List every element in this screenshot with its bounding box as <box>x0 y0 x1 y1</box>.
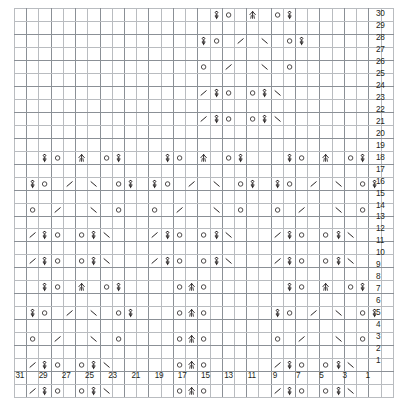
chart-cell[interactable] <box>198 242 210 255</box>
chart-cell[interactable] <box>88 190 100 203</box>
chart-cell[interactable] <box>247 255 259 268</box>
chart-cell[interactable] <box>173 268 185 281</box>
chart-cell[interactable] <box>112 60 124 73</box>
chart-cell[interactable] <box>332 34 344 47</box>
chart-cell[interactable] <box>63 385 75 398</box>
chart-cell[interactable] <box>296 151 308 164</box>
chart-cell[interactable] <box>15 294 27 307</box>
chart-cell[interactable] <box>186 203 198 216</box>
chart-cell[interactable] <box>100 125 112 138</box>
chart-cell[interactable] <box>320 164 332 177</box>
chart-cell[interactable] <box>51 177 63 190</box>
chart-cell[interactable] <box>271 9 283 22</box>
chart-cell[interactable] <box>271 112 283 125</box>
chart-cell[interactable] <box>332 99 344 112</box>
chart-cell[interactable] <box>247 203 259 216</box>
chart-cell[interactable] <box>247 320 259 333</box>
chart-cell[interactable] <box>51 9 63 22</box>
chart-cell[interactable] <box>283 125 295 138</box>
chart-cell[interactable] <box>296 385 308 398</box>
chart-cell[interactable] <box>100 346 112 359</box>
chart-cell[interactable] <box>247 333 259 346</box>
chart-cell[interactable] <box>137 21 149 34</box>
chart-cell[interactable] <box>63 86 75 99</box>
chart-cell[interactable] <box>259 99 271 112</box>
chart-cell[interactable] <box>234 177 246 190</box>
chart-cell[interactable] <box>234 47 246 60</box>
chart-cell[interactable] <box>222 164 234 177</box>
chart-cell[interactable] <box>210 190 222 203</box>
chart-cell[interactable] <box>76 60 88 73</box>
chart-cell[interactable] <box>173 112 185 125</box>
chart-cell[interactable] <box>357 385 369 398</box>
chart-cell[interactable] <box>76 320 88 333</box>
chart-cell[interactable] <box>88 281 100 294</box>
chart-cell[interactable] <box>186 177 198 190</box>
chart-cell[interactable] <box>39 385 51 398</box>
chart-cell[interactable] <box>15 47 27 60</box>
chart-cell[interactable] <box>76 385 88 398</box>
chart-cell[interactable] <box>186 190 198 203</box>
chart-cell[interactable] <box>271 294 283 307</box>
chart-cell[interactable] <box>186 281 198 294</box>
chart-cell[interactable] <box>51 34 63 47</box>
chart-cell[interactable] <box>137 73 149 86</box>
chart-cell[interactable] <box>88 73 100 86</box>
chart-cell[interactable] <box>76 216 88 229</box>
chart-cell[interactable] <box>137 229 149 242</box>
chart-cell[interactable] <box>173 34 185 47</box>
chart-cell[interactable] <box>137 333 149 346</box>
chart-cell[interactable] <box>308 346 320 359</box>
chart-cell[interactable] <box>210 164 222 177</box>
chart-cell[interactable] <box>259 242 271 255</box>
chart-cell[interactable] <box>296 242 308 255</box>
chart-cell[interactable] <box>308 164 320 177</box>
chart-cell[interactable] <box>247 216 259 229</box>
chart-cell[interactable] <box>296 9 308 22</box>
chart-cell[interactable] <box>161 164 173 177</box>
chart-cell[interactable] <box>124 73 136 86</box>
chart-cell[interactable] <box>247 9 259 22</box>
chart-cell[interactable] <box>51 99 63 112</box>
chart-cell[interactable] <box>283 60 295 73</box>
chart-cell[interactable] <box>112 255 124 268</box>
chart-cell[interactable] <box>51 333 63 346</box>
chart-cell[interactable] <box>137 268 149 281</box>
chart-cell[interactable] <box>210 138 222 151</box>
chart-cell[interactable] <box>173 242 185 255</box>
chart-cell[interactable] <box>308 86 320 99</box>
chart-cell[interactable] <box>283 138 295 151</box>
chart-cell[interactable] <box>247 112 259 125</box>
chart-cell[interactable] <box>137 151 149 164</box>
chart-cell[interactable] <box>88 346 100 359</box>
chart-cell[interactable] <box>137 203 149 216</box>
chart-cell[interactable] <box>344 99 356 112</box>
chart-cell[interactable] <box>39 86 51 99</box>
chart-cell[interactable] <box>161 255 173 268</box>
chart-cell[interactable] <box>51 255 63 268</box>
chart-cell[interactable] <box>88 307 100 320</box>
chart-cell[interactable] <box>149 60 161 73</box>
chart-cell[interactable] <box>39 281 51 294</box>
chart-cell[interactable] <box>320 229 332 242</box>
chart-cell[interactable] <box>100 268 112 281</box>
chart-cell[interactable] <box>296 203 308 216</box>
chart-cell[interactable] <box>234 73 246 86</box>
chart-cell[interactable] <box>76 151 88 164</box>
chart-cell[interactable] <box>198 281 210 294</box>
chart-cell[interactable] <box>76 307 88 320</box>
chart-cell[interactable] <box>124 34 136 47</box>
chart-cell[interactable] <box>124 99 136 112</box>
chart-cell[interactable] <box>112 47 124 60</box>
chart-cell[interactable] <box>186 164 198 177</box>
chart-cell[interactable] <box>357 34 369 47</box>
chart-cell[interactable] <box>149 229 161 242</box>
chart-cell[interactable] <box>357 242 369 255</box>
chart-cell[interactable] <box>296 216 308 229</box>
chart-cell[interactable] <box>186 346 198 359</box>
chart-cell[interactable] <box>51 242 63 255</box>
chart-cell[interactable] <box>15 307 27 320</box>
chart-cell[interactable] <box>357 138 369 151</box>
chart-cell[interactable] <box>344 268 356 281</box>
chart-cell[interactable] <box>137 242 149 255</box>
